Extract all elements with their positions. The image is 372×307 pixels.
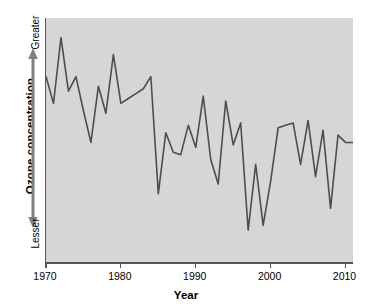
x-tick-label: 1980 <box>98 270 142 282</box>
x-tick-label: 1990 <box>173 270 217 282</box>
data-line-series <box>46 18 353 262</box>
ozone-concentration-chart: Ozone concentration Greater Lesser 19701… <box>0 0 372 307</box>
x-tick-label: 2000 <box>248 270 292 282</box>
x-tick-mark <box>45 262 47 268</box>
x-tick-mark <box>120 262 122 268</box>
x-axis-title: Year <box>0 289 372 301</box>
x-tick-label: 2010 <box>323 270 367 282</box>
y-axis-top-label: Greater <box>30 0 41 73</box>
plot-area <box>45 18 353 262</box>
x-tick-mark <box>270 262 272 268</box>
x-axis-line <box>45 262 353 264</box>
y-axis-bottom-label: Lesser <box>30 194 41 274</box>
x-tick-label: 1970 <box>23 270 67 282</box>
x-tick-mark <box>345 262 347 268</box>
x-tick-mark <box>195 262 197 268</box>
